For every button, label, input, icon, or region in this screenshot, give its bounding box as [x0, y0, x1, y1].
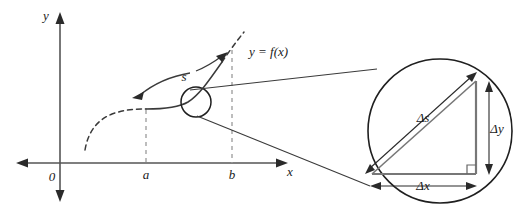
delta-x-arrow-head-right [466, 182, 477, 190]
curve-dashed-left [85, 109, 146, 150]
origin-label: 0 [49, 169, 56, 184]
delta-x-label: Δx [415, 178, 430, 193]
right-angle-marker [467, 165, 476, 174]
y-axis-arrow-down [56, 190, 65, 202]
function-curve-group [85, 32, 244, 150]
arc-s-arrow-left-head [132, 92, 144, 101]
delta-y-arrow-head-top [485, 81, 493, 92]
tick-label-a: a [143, 167, 150, 182]
arc-s-arrow-right-head [216, 52, 228, 62]
curve-dashed-right [222, 32, 244, 62]
arc-length-label: s [181, 69, 186, 84]
figure-canvas: y x 0 y = f(x) a b s [0, 0, 528, 211]
delta-y-label: Δy [489, 121, 504, 136]
y-axis-label: y [41, 8, 49, 23]
magnifier-connector-group [190, 69, 377, 186]
connector-line-lower [197, 116, 370, 186]
differential-triangle-group [372, 81, 476, 174]
connector-line-upper [190, 69, 377, 90]
triangle-hypotenuse [372, 81, 476, 174]
x-axis-label: x [286, 164, 293, 179]
axes-group [16, 12, 288, 202]
y-axis-arrow-up [56, 12, 65, 24]
tick-label-b: b [229, 167, 236, 182]
delta-s-label: Δs [416, 110, 430, 125]
curve-equation-label: y = f(x) [247, 44, 288, 59]
x-axis-arrow-left [16, 159, 28, 168]
arc-length-figure: y x 0 y = f(x) a b s [0, 0, 528, 211]
delta-y-arrow-head-bottom [485, 164, 493, 175]
arc-length-indicator [132, 52, 228, 100]
delta-x-arrow-head-left [370, 182, 381, 190]
magnifier-source-circle [181, 87, 211, 117]
